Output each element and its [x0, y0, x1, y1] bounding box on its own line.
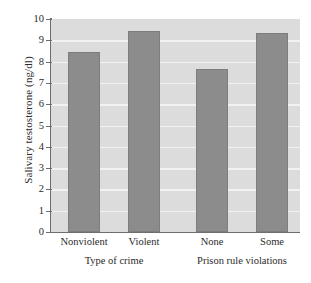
bar-chart-figure: Salivary testosterone (ng/dl) 0123456789… [0, 0, 311, 283]
y-tick-label-1: 1 [22, 206, 44, 216]
y-tick-mark-2 [46, 189, 52, 190]
group-axis-labels: Type of crimePrison rule violations [51, 255, 300, 271]
y-tick-label-0: 0 [22, 227, 44, 237]
group-label-0: Type of crime [85, 255, 144, 266]
category-label-none: None [201, 236, 224, 247]
y-tick-mark-3 [46, 168, 52, 169]
y-tick-mark-10 [46, 19, 52, 20]
y-tick-mark-0 [46, 232, 52, 233]
plot-area [51, 19, 300, 232]
y-tick-label-7: 7 [22, 78, 44, 88]
y-tick-label-8: 8 [22, 57, 44, 67]
y-tick-label-10: 10 [22, 14, 44, 24]
y-tick-mark-4 [46, 147, 52, 148]
y-tick-mark-8 [46, 62, 52, 63]
y-tick-label-6: 6 [22, 99, 44, 109]
category-axis-labels: NonviolentViolentNoneSome [51, 236, 300, 252]
category-label-violent: Violent [129, 236, 160, 247]
bar-some [256, 33, 288, 232]
y-tick-label-5: 5 [22, 121, 44, 131]
y-tick-label-2: 2 [22, 184, 44, 194]
y-tick-label-3: 3 [22, 163, 44, 173]
y-tick-label-9: 9 [22, 35, 44, 45]
bar-violent [128, 31, 160, 232]
y-axis-tick-labels: 012345678910 [22, 19, 44, 232]
y-tick-mark-9 [46, 40, 52, 41]
y-tick-mark-1 [46, 211, 52, 212]
bar-none [196, 69, 228, 232]
bar-nonviolent [68, 52, 100, 232]
y-tick-mark-6 [46, 104, 52, 105]
y-tick-label-4: 4 [22, 142, 44, 152]
y-tick-mark-5 [46, 126, 52, 127]
category-label-nonviolent: Nonviolent [60, 236, 107, 247]
y-tick-mark-7 [46, 83, 52, 84]
category-label-some: Some [260, 236, 284, 247]
group-label-1: Prison rule violations [197, 255, 287, 266]
